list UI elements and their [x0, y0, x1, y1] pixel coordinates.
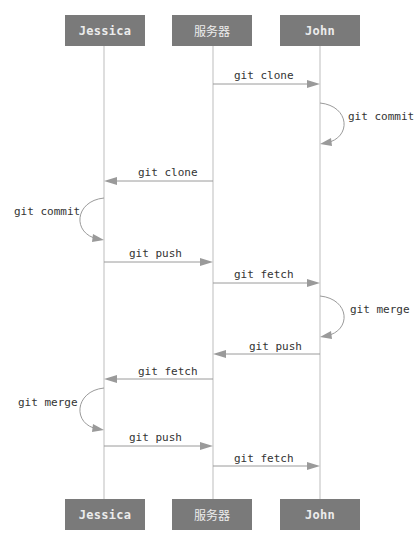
actor-label: John — [305, 24, 335, 38]
message-label: git push — [129, 432, 182, 444]
message-label: git commit — [348, 111, 414, 123]
message-label: git clone — [234, 70, 294, 82]
message-label: git merge — [350, 304, 410, 316]
actor-label: Jessica — [79, 24, 132, 38]
message-label: git merge — [18, 397, 78, 409]
actor-john-top: John — [280, 15, 360, 46]
actor-jessica-top: Jessica — [65, 15, 145, 46]
message-label: git fetch — [234, 269, 294, 281]
loop-john-git-commit — [320, 103, 344, 146]
actor-label: 服务器 — [194, 506, 231, 523]
loop-john-git-merge — [320, 296, 344, 339]
message-label: git clone — [138, 167, 198, 179]
actor-label: 服务器 — [194, 22, 231, 39]
message-label: git commit — [14, 206, 80, 218]
actor-john-bottom: John — [280, 499, 360, 530]
loop-jessica-git-commit — [80, 198, 104, 242]
loop-jessica-git-merge — [80, 388, 104, 432]
actor-server-top: 服务器 — [172, 15, 252, 46]
actor-label: John — [305, 508, 335, 522]
message-label: git fetch — [234, 453, 294, 465]
message-label: git fetch — [138, 366, 198, 378]
actor-jessica-bottom: Jessica — [65, 499, 145, 530]
message-label: git push — [249, 341, 302, 353]
actor-label: Jessica — [79, 508, 132, 522]
diagram-lines — [0, 0, 416, 545]
message-label: git push — [129, 248, 182, 260]
sequence-diagram: Jessica 服务器 John Jessica 服务器 John git cl… — [0, 0, 416, 545]
actor-server-bottom: 服务器 — [172, 499, 252, 530]
